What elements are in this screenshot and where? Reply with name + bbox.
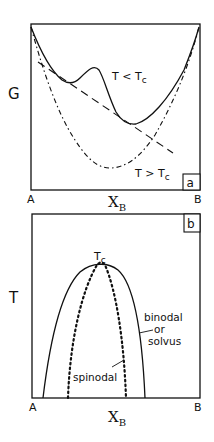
panel-b: b Tc binodal or solvus spinodal T A B XB [8,214,202,428]
panel-b-x-left-label: A [29,401,37,414]
label-above-tc: T > Tc [134,167,170,182]
phase-diagram-figure: a T < Tc T > Tc G A B XB b Tc binodal or… [0,0,214,442]
binodal-label-line2: or [154,323,165,335]
spinodal-pointer [112,360,124,367]
panel-b-y-axis-label: T [8,289,19,307]
panel-a-x-axis-label: XB [108,193,126,213]
panel-a: a T < Tc T > Tc G A B XB [8,24,202,213]
binodal-pointer [139,330,153,333]
panel-a-frame [31,24,200,190]
panel-b-x-right-label: B [194,401,202,414]
panel-b-x-axis-label: XB [108,408,126,428]
spinodal-label: spinodal [73,371,117,383]
panel-a-x-left-label: A [27,193,35,206]
free-energy-curve-above-tc [31,27,199,168]
label-below-tc: T < Tc [111,70,147,85]
panel-b-tag: b [187,217,195,231]
common-tangent-line [38,62,173,153]
panel-a-x-right-label: B [194,193,202,206]
critical-temperature-label: Tc [93,250,106,265]
binodal-label-line1: binodal [144,311,183,323]
binodal-label-line3: solvus [148,335,181,347]
panel-a-tag: a [187,176,194,190]
panel-a-y-axis-label: G [8,85,20,103]
